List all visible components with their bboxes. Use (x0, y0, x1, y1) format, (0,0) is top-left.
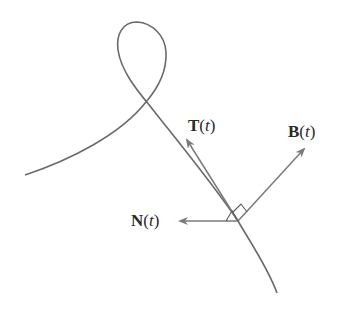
binormal-vector-arrow (238, 149, 304, 221)
diagram-svg (0, 0, 344, 313)
tangent-vector-arrow (187, 140, 238, 221)
tnb-frame-diagram: T(t) B(t) N(t) (0, 0, 344, 313)
normal-symbol: N (131, 211, 143, 230)
tangent-symbol: T (188, 116, 199, 135)
binormal-vector-label: B(t) (288, 123, 315, 140)
space-curve (25, 22, 277, 293)
binormal-symbol: B (288, 122, 299, 141)
normal-vector-label: N(t) (131, 212, 159, 229)
right-angle-marker-t-b (233, 204, 247, 212)
tangent-vector-label: T(t) (188, 117, 215, 134)
